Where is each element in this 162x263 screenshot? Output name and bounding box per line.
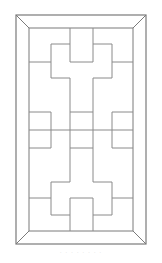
frame-bevel bbox=[133, 231, 146, 244]
lattice-window-diagram bbox=[0, 0, 162, 263]
frame-bevel bbox=[133, 15, 146, 28]
frame-bevel bbox=[16, 15, 29, 28]
diagram-caption: · · · · · · · · bbox=[0, 249, 162, 255]
lattice-grid bbox=[29, 28, 133, 231]
frame-bevel bbox=[16, 231, 29, 244]
